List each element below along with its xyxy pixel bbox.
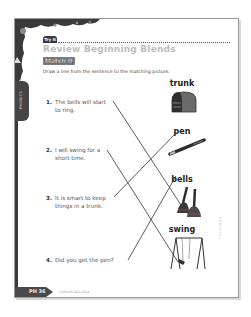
sentence-1: 1. The bells will start to ring. — [55, 98, 106, 114]
sentence-3: 3. It is smart to keep things in a trunk… — [55, 194, 106, 210]
swing-icon — [170, 235, 206, 271]
instructions: Draw a line from the sentence to the mat… — [43, 69, 170, 74]
sentence-text-line2: to ring. — [55, 106, 106, 114]
picture-label-trunk: trunk — [162, 79, 202, 88]
decorative-splatter-top — [15, 19, 100, 31]
picture-label-pen: pen — [162, 127, 202, 136]
side-tab-phonics: PHONICS — [15, 81, 29, 121]
side-tab-label: PHONICS — [19, 91, 23, 109]
trunk-icon — [170, 90, 198, 114]
worksheet-page: PHONICS Try It Review Beginning Blends M… — [14, 18, 239, 298]
copyright-vertical: © Carson-Dellosa — [219, 217, 222, 239]
sentence-4: 4. Did you get the pen? — [55, 256, 114, 264]
sentence-number: 4. — [46, 256, 52, 264]
sentence-number: 3. — [46, 194, 52, 202]
dotted-divider — [58, 42, 230, 43]
footer-page-label: PH 36 — [29, 288, 46, 294]
sentence-2: 2. I will swing for a short time. — [55, 146, 100, 162]
sentence-text-line2: short time. — [55, 154, 100, 162]
picture-label-bells: bells — [162, 175, 202, 184]
sentence-text-line1: The bells will start — [55, 98, 106, 106]
sentence-text-line2: things in a trunk. — [55, 202, 106, 210]
footer-page-tab: PH 36 — [15, 287, 53, 297]
section-subtitle: Match It — [43, 57, 75, 65]
decorative-splatter-left — [15, 19, 27, 89]
sentence-text-line1: It is smart to keep — [55, 194, 106, 202]
footer-publisher: CARSON-DELLOSA — [59, 290, 89, 294]
try-it-badge: Try It — [43, 36, 57, 43]
page-title: Review Beginning Blends — [43, 44, 176, 54]
sentence-text-line1: I will swing for a — [55, 146, 100, 154]
pen-icon — [167, 138, 207, 156]
picture-label-swing: swing — [162, 225, 202, 234]
bells-icon — [173, 185, 203, 219]
sentence-number: 1. — [46, 98, 52, 106]
sentence-text-line1: Did you get the pen? — [55, 256, 114, 264]
sentence-number: 2. — [46, 146, 52, 154]
